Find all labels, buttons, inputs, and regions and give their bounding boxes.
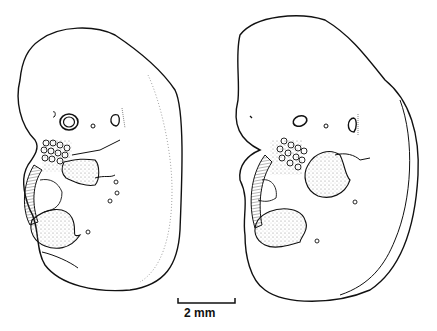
lower-limb: [31, 210, 80, 249]
scale-bar: [178, 298, 235, 303]
ear-icon: [111, 115, 119, 126]
ear-icon-right: [348, 118, 356, 132]
embryo-right: [236, 16, 418, 301]
upper-limb-right: [305, 152, 350, 198]
embryo-left: [18, 28, 182, 291]
embryo-left-inner-outline: [140, 75, 172, 282]
upper-limb: [62, 159, 99, 185]
scale-bar-label: 2 mm: [184, 306, 215, 320]
eye-icon-right: [292, 114, 309, 128]
lower-limb-right: [255, 209, 306, 247]
figure-canvas: [0, 0, 437, 331]
